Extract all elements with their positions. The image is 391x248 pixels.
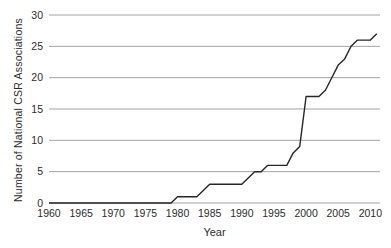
x-tick-label: 1960 <box>37 207 61 219</box>
csr-associations-series-line <box>49 34 377 203</box>
y-tick-label: 15 <box>31 103 43 115</box>
plot-area: 0510152025301960196519701975198019851990… <box>0 0 391 248</box>
x-tick-label: 2005 <box>327 207 351 219</box>
y-tick-label: 25 <box>31 40 43 52</box>
x-tick-label: 2000 <box>294 207 318 219</box>
x-tick-label: 1990 <box>230 207 254 219</box>
x-tick-label: 2010 <box>359 207 383 219</box>
y-tick-label: 5 <box>37 165 43 177</box>
y-tick-label: 10 <box>31 134 43 146</box>
x-tick-label: 1970 <box>102 207 126 219</box>
x-tick-label: 1985 <box>198 207 222 219</box>
y-tick-label: 30 <box>31 9 43 21</box>
y-axis-title: Number of National CSR Associations <box>12 10 24 210</box>
x-tick-label: 1980 <box>166 207 190 219</box>
csr-associations-line-chart: 0510152025301960196519701975198019851990… <box>0 0 391 248</box>
x-tick-label: 1995 <box>262 207 286 219</box>
x-tick-label: 1965 <box>69 207 93 219</box>
x-axis-title: Year <box>49 226 380 238</box>
y-tick-label: 20 <box>31 71 43 83</box>
x-tick-label: 1975 <box>134 207 158 219</box>
